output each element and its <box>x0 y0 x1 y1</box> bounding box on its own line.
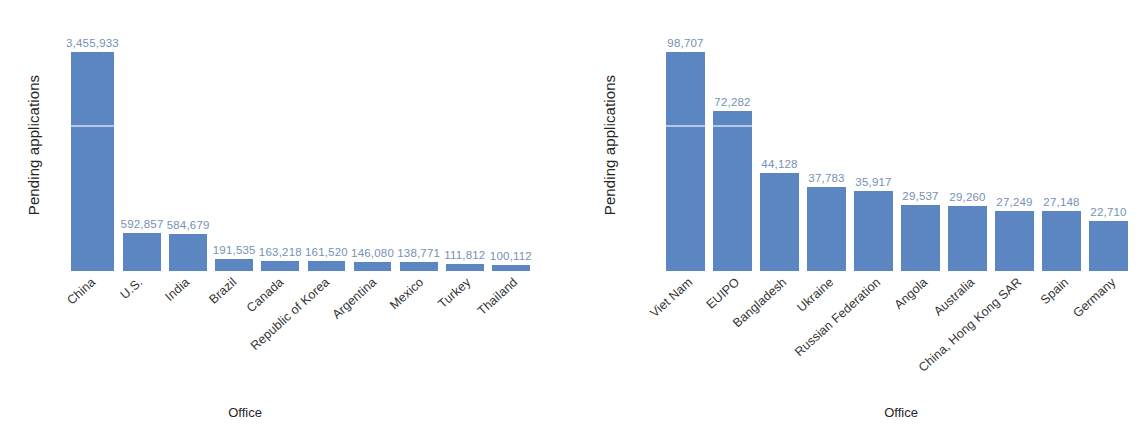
x-tick-label: Australia <box>931 275 977 319</box>
x-tick-label: Republic of Korea <box>248 275 332 353</box>
x-tick-label: China <box>65 275 99 308</box>
bar-value-label: 27,249 <box>996 196 1032 209</box>
bar <box>354 262 392 271</box>
bar-group: 138,771 <box>396 25 442 271</box>
bar-value-label: 22,710 <box>1090 206 1126 219</box>
x-tick-label: Ukraine <box>794 275 836 315</box>
bar-wrapper: 161,520 <box>308 246 346 271</box>
bar-group: 3,455,933 <box>66 25 119 271</box>
bar <box>1042 211 1081 271</box>
bar-value-label: 146,080 <box>351 247 394 260</box>
bar-value-label: 584,679 <box>167 219 210 232</box>
bar-value-label: 100,112 <box>490 250 532 263</box>
x-tick-label: Thailand <box>474 275 520 318</box>
x-tick-label: Russian Federation <box>792 275 883 359</box>
bar <box>1089 221 1128 271</box>
bar-group: 72,282 <box>709 25 756 271</box>
bar-value-label: 35,917 <box>855 176 891 189</box>
bar <box>713 111 752 271</box>
bar-group: 27,249 <box>991 25 1038 271</box>
bar-group: 111,812 <box>442 25 488 271</box>
x-tick-label: Turkey <box>435 275 473 311</box>
bar <box>400 262 438 271</box>
bar-wrapper: 100,112 <box>492 250 530 271</box>
x-tick-label: Spain <box>1037 275 1071 307</box>
bar-group: 163,218 <box>257 25 303 271</box>
bar-value-label: 191,535 <box>213 244 256 257</box>
bar-wrapper: 163,218 <box>261 246 299 271</box>
bar-wrapper: 27,249 <box>995 196 1034 271</box>
bar-wrapper: 44,128 <box>760 158 799 271</box>
bar-value-label: 37,783 <box>808 172 844 185</box>
bar-wrapper: 27,148 <box>1042 196 1081 271</box>
y-axis-title-left: Pending applications <box>20 10 46 280</box>
bar-wrapper: 191,535 <box>215 244 253 271</box>
bar-wrapper: 29,260 <box>948 191 987 271</box>
bar-wrapper: 138,771 <box>400 247 438 271</box>
x-axis-title-left: Office <box>0 405 532 420</box>
chart-panel-right: Pending applications 98,70772,28244,1283… <box>574 0 1148 428</box>
plot-area-left: 3,455,933592,857584,679191,535163,218161… <box>66 25 534 271</box>
bar <box>760 173 799 271</box>
bar-value-label: 27,148 <box>1043 196 1079 209</box>
two-panel-bar-chart-figure: Pending applications 3,455,933592,857584… <box>0 0 1148 428</box>
bar-wrapper: 3,455,933 <box>71 37 114 271</box>
y-axis-title-right: Pending applications <box>596 10 622 280</box>
x-tick-label: Germany <box>1070 275 1118 320</box>
bar-group: 584,679 <box>165 25 211 271</box>
bar-group: 161,520 <box>303 25 349 271</box>
bar-value-label: 138,771 <box>397 247 440 260</box>
bar-group: 29,537 <box>897 25 944 271</box>
bar-value-label: 592,857 <box>121 218 164 231</box>
bar-wrapper: 111,812 <box>446 249 484 271</box>
x-tick-label: Mexico <box>387 275 426 312</box>
x-tick-label: Viet Nam <box>647 275 695 320</box>
x-tick-label: Angola <box>891 275 930 312</box>
bar <box>948 206 987 271</box>
bar-value-label: 161,520 <box>305 246 348 259</box>
x-tick-label: India <box>162 275 192 304</box>
bar-value-label: 3,455,933 <box>66 37 119 50</box>
bar-wrapper: 35,917 <box>854 176 893 271</box>
bar-group: 29,260 <box>944 25 991 271</box>
bar-group: 146,080 <box>350 25 396 271</box>
bar-group: 592,857 <box>119 25 165 271</box>
chart-panel-left: Pending applications 3,455,933592,857584… <box>0 0 574 428</box>
bar-wrapper: 98,707 <box>666 37 705 271</box>
plot-area-right: 98,70772,28244,12837,78335,91729,53729,2… <box>662 25 1132 271</box>
bar-value-label: 29,260 <box>949 191 985 204</box>
bar-value-label: 98,707 <box>667 37 703 50</box>
bar-wrapper: 146,080 <box>354 247 392 271</box>
bar-wrapper: 22,710 <box>1089 206 1128 271</box>
bar-wrapper: 37,783 <box>807 172 846 271</box>
bar <box>446 264 484 271</box>
x-tick-label: EUIPO <box>703 275 742 312</box>
bar-value-label: 29,537 <box>902 190 938 203</box>
bar-group: 37,783 <box>803 25 850 271</box>
bar <box>261 261 299 271</box>
x-tick-label: Brazil <box>206 275 239 307</box>
bar-value-label: 72,282 <box>714 96 750 109</box>
bar-group: 22,710 <box>1085 25 1132 271</box>
bar-value-label: 44,128 <box>761 158 797 171</box>
bar <box>308 261 346 271</box>
bar <box>666 52 705 271</box>
x-tick-label: Argentina <box>330 275 380 322</box>
bar-wrapper: 72,282 <box>713 96 752 271</box>
bar-group: 191,535 <box>211 25 257 271</box>
bar <box>807 187 846 271</box>
x-tick-label: Canada <box>244 275 286 315</box>
bar <box>71 52 114 271</box>
bar-value-label: 163,218 <box>259 246 302 259</box>
bar-group: 27,148 <box>1038 25 1085 271</box>
bar <box>215 259 253 271</box>
bar-value-label: 111,812 <box>444 249 485 262</box>
bar <box>123 233 161 271</box>
bar <box>854 191 893 271</box>
bar-group: 35,917 <box>850 25 897 271</box>
bar-wrapper: 584,679 <box>169 219 207 271</box>
bar-wrapper: 592,857 <box>123 218 161 271</box>
bar <box>169 234 207 271</box>
bar <box>901 205 940 271</box>
x-axis-title-right: Office <box>614 405 1148 420</box>
